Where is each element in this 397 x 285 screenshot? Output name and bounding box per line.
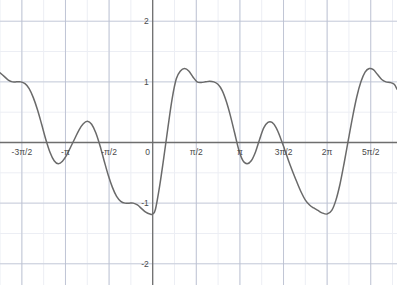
x-tick-label: 3π/2 — [275, 148, 293, 157]
x-tick-label: -π — [61, 148, 70, 157]
x-tick-label: -3π/2 — [12, 148, 33, 157]
data-curve — [0, 68, 397, 214]
chart-plot — [0, 0, 397, 285]
x-tick-label: π/2 — [190, 148, 203, 157]
x-tick-label: 2π — [322, 148, 333, 157]
x-tick-label: π — [237, 148, 243, 157]
x-tick-label: 5π/2 — [362, 148, 380, 157]
x-tick-label: -π/2 — [101, 148, 117, 157]
chart-container: -3π/2-π-π/20π/2π3π/22π5π/2 21-1-2 — [0, 0, 397, 285]
y-tick-label: 1 — [136, 78, 149, 87]
y-tick-label: -1 — [136, 199, 149, 208]
axis-lines — [0, 0, 397, 285]
x-tick-label: 0 — [145, 148, 150, 157]
y-tick-label: -2 — [136, 260, 149, 269]
y-tick-label: 2 — [136, 17, 149, 26]
